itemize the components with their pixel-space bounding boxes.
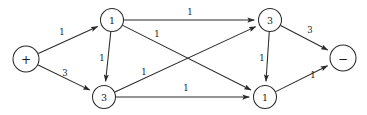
- edge-weight-label: 3: [62, 68, 67, 78]
- edge-weight-label: 3: [307, 25, 312, 35]
- edge-weight-label: 1: [259, 53, 264, 63]
- graph-node-upper-left: 1: [101, 9, 124, 32]
- graph-edge: [281, 26, 328, 51]
- edge-weight-label: 1: [154, 29, 159, 39]
- graph-edge: [276, 66, 328, 92]
- graph-edge: [266, 32, 269, 81]
- node-label: +: [21, 53, 31, 67]
- node-label: 1: [109, 15, 115, 26]
- nodes-layer: +1331−: [13, 9, 356, 109]
- edge-weight-label: 1: [183, 83, 188, 93]
- flow-network-diagram: 1311111131 +1331−: [0, 0, 367, 115]
- graph-node-lower-left: 3: [93, 86, 116, 109]
- graph-edge: [106, 32, 111, 81]
- edge-weight-label: 1: [310, 70, 315, 80]
- graph-node-lower-right: 1: [254, 86, 277, 109]
- graph-node-source: +: [13, 46, 39, 72]
- graph-canvas: 1311111131 +1331−: [0, 0, 367, 115]
- graph-edge: [38, 26, 97, 53]
- edge-weight-label: 1: [141, 67, 146, 77]
- node-label: 3: [267, 15, 273, 26]
- edge-weight-label: 1: [187, 7, 192, 17]
- node-label: 3: [101, 92, 107, 103]
- graph-node-upper-right: 3: [259, 9, 282, 32]
- node-label: 1: [262, 92, 268, 103]
- node-label: −: [338, 52, 348, 66]
- graph-node-sink: −: [330, 45, 356, 71]
- graph-edge: [123, 25, 251, 90]
- edge-weight-label: 1: [99, 53, 104, 63]
- edge-weight-label: 1: [59, 27, 64, 37]
